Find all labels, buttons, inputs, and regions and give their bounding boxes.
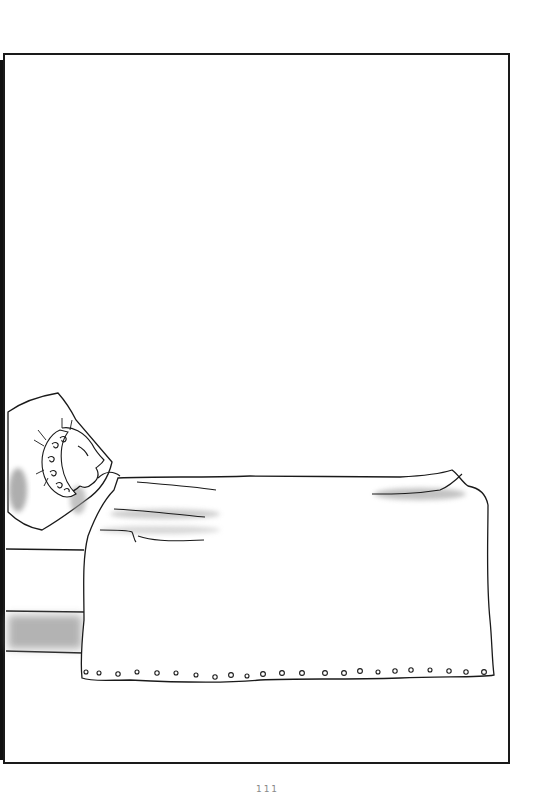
pillow-shadow — [9, 468, 27, 512]
page-number: 111 — [0, 784, 535, 793]
blanket — [81, 470, 494, 682]
bed-scene-illustration — [0, 0, 535, 793]
bed-frame-shadow — [8, 615, 82, 649]
blanket-fold-shadow — [110, 509, 220, 519]
